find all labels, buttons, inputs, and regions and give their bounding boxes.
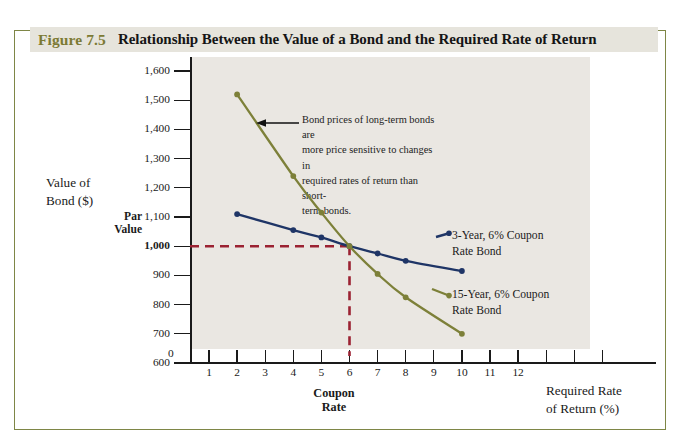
x-axis-title: Required Rate of Return (%)	[546, 382, 622, 417]
par-value-line1: Par	[98, 210, 142, 223]
y-tick	[174, 100, 190, 101]
y-axis-title-line2: Bond ($)	[46, 192, 93, 210]
coupon-rate-tag: Coupon Rate	[286, 386, 382, 415]
long-term-sensitivity-note: Bond prices of long-term bonds are more …	[302, 112, 442, 218]
x-tick-label: 9	[431, 366, 437, 378]
x-tick	[433, 350, 434, 362]
annotation-line1: Bond prices of long-term bonds are	[302, 112, 442, 142]
x-tick	[489, 350, 490, 362]
x-tick	[517, 350, 518, 362]
y-tick-label: 1,300	[144, 153, 170, 164]
x-tick-label: 3	[262, 366, 268, 378]
y-tick	[174, 187, 190, 188]
frame-notch-right	[637, 53, 639, 69]
y-tick	[174, 216, 190, 217]
x-tick	[377, 350, 378, 362]
y-tick	[174, 158, 190, 159]
y-axis-title: Value of Bond ($)	[46, 174, 93, 209]
frame-notch-left	[41, 53, 43, 69]
x-axis-title-line2: of Return (%)	[546, 400, 622, 418]
y-tick-label: 600	[153, 357, 170, 368]
x-tick	[208, 350, 209, 362]
par-value-tag: Par Value	[98, 210, 142, 237]
figure-number: Figure 7.5	[38, 31, 106, 49]
y-tick	[174, 304, 190, 305]
x-tick	[461, 350, 462, 362]
y-tick-label: 1,000	[144, 240, 170, 251]
x-tick	[349, 350, 350, 362]
x-tick-label: 1	[206, 366, 212, 378]
series-label-3-year: 3-Year, 6% Coupon Rate Bond	[452, 228, 543, 259]
x-tick-label: 8	[403, 366, 409, 378]
x-tick-label: 5	[319, 366, 325, 378]
x-tick-label: 10	[456, 366, 467, 378]
x-tick	[574, 350, 575, 362]
x-tick	[602, 350, 603, 362]
x-tick	[265, 350, 266, 362]
y-axis-title-line1: Value of	[46, 174, 93, 192]
x-tick	[546, 350, 547, 362]
x-tick-label: 6	[347, 366, 353, 378]
y-tick-label: 1,600	[144, 65, 170, 76]
coupon-rate-line1: Coupon	[286, 386, 382, 400]
y-tick	[174, 362, 190, 363]
y-tick-label: 700	[153, 328, 170, 339]
series-label-3-year-line2: Rate Bond	[452, 244, 543, 260]
series-label-15-year: 15-Year, 6% Coupon Rate Bond	[452, 287, 549, 318]
y-tick-label: 800	[153, 299, 170, 310]
y-tick	[174, 129, 190, 130]
x-axis-line	[190, 362, 656, 364]
y-tick-label: 1,500	[144, 94, 170, 105]
figure-container: Figure 7.5 Relationship Between the Valu…	[0, 0, 680, 448]
annotation-line2: more price sensitive to changes in	[302, 142, 442, 172]
series-label-15-year-line1: 15-Year, 6% Coupon	[452, 287, 549, 303]
y-tick	[174, 70, 190, 71]
figure-title: Relationship Between the Value of a Bond…	[118, 31, 597, 48]
x-tick-label: 12	[512, 366, 523, 378]
series-label-15-year-line2: Rate Bond	[452, 303, 549, 319]
y-tick	[174, 275, 190, 276]
annotation-line4: term bonds.	[302, 203, 442, 218]
series-label-3-year-line1: 3-Year, 6% Coupon	[452, 228, 543, 244]
par-value-line2: Value	[98, 223, 142, 236]
y-tick	[174, 246, 190, 247]
x-tick	[236, 350, 237, 362]
x-tick-label: 4	[290, 366, 296, 378]
y-tick-label: 900	[153, 269, 170, 280]
coupon-rate-line2: Rate	[286, 400, 382, 414]
y-tick	[174, 333, 190, 334]
y-tick-label: 1,400	[144, 123, 170, 134]
x-tick	[293, 350, 294, 362]
x-tick-label: 11	[485, 366, 496, 378]
x-axis-title-line1: Required Rate	[546, 382, 622, 400]
x-tick	[321, 350, 322, 362]
y-axis-line	[190, 57, 192, 363]
x-tick	[405, 350, 406, 362]
x-tick-label: 7	[375, 366, 381, 378]
x-tick-label: 2	[234, 366, 240, 378]
annotation-line3: required rates of return than short-	[302, 173, 442, 203]
y-tick-label: 1,100	[144, 211, 170, 222]
y-tick-label: 1,200	[144, 182, 170, 193]
figure-title-banner: Figure 7.5 Relationship Between the Valu…	[30, 27, 658, 52]
